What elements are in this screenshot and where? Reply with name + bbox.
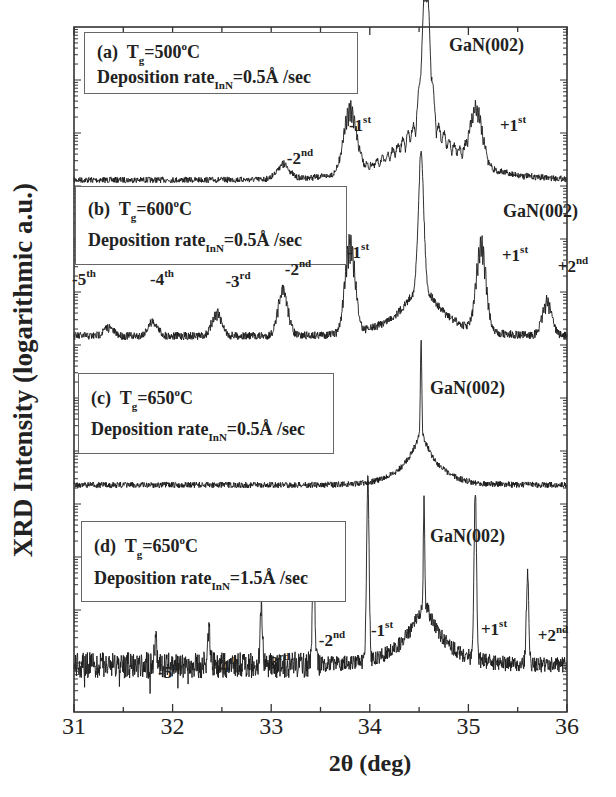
tg-value: =650: [137, 388, 174, 408]
xrd-figure: (a) Tg=500oC Deposition rateInN=0.5Å /se…: [0, 0, 616, 797]
order-label-b: +1st: [502, 243, 528, 266]
tg-label: T: [125, 536, 137, 556]
order-label-d: -1st: [371, 618, 393, 641]
rate-value: =0.5Å /sec: [224, 230, 302, 250]
rate-sub: InN: [214, 79, 232, 91]
x-tick-label: 35: [448, 713, 488, 740]
gan-peak-label-a: GaN(002): [449, 35, 524, 56]
tg-unit: C: [185, 536, 198, 556]
panel-tag: (a): [97, 42, 118, 62]
rate-label: Deposition rate: [94, 568, 211, 588]
rate-label: Deposition rate: [91, 419, 208, 439]
y-axis-label: XRD Intensity (logarithmic a.u.): [8, 170, 38, 570]
gan-peak-label-d: GaN(002): [430, 526, 505, 547]
legend-panel-a: (a) Tg=500oC Deposition rateInN=0.5Å /se…: [84, 32, 358, 94]
panel-tag: (b): [88, 199, 110, 219]
gan-peak-label-b: GaN(002): [503, 201, 578, 222]
plot-frame: [74, 27, 567, 712]
rate-value: =0.5Å /sec: [233, 67, 311, 87]
order-label-d: -3rd: [264, 650, 289, 673]
order-label-a: -2nd: [287, 146, 313, 169]
order-label-d: +1st: [481, 617, 507, 640]
tg-label: T: [120, 388, 132, 408]
x-tick-label: 32: [153, 713, 193, 740]
tg-label: T: [127, 42, 139, 62]
x-tick-label: 36: [547, 713, 587, 740]
order-label-d: -5th: [158, 660, 182, 683]
order-label-b: -4th: [150, 267, 174, 290]
tg-value: =500: [144, 42, 181, 62]
legend-panel-c: (c) Tg=650oC Deposition rateInN=0.5Å /se…: [78, 373, 334, 454]
order-label-d: -4th: [215, 654, 239, 677]
tg-value: =600: [136, 199, 173, 219]
x-tick-label: 34: [350, 713, 390, 740]
order-label-a: -1st: [349, 113, 371, 136]
legend-panel-d: (d) Tg=650oC Deposition rateInN=1.5Å /se…: [81, 521, 346, 602]
tg-label: T: [119, 199, 131, 219]
rate-value: =0.5Å /sec: [227, 419, 305, 439]
rate-sub: InN: [208, 431, 226, 443]
rate-label: Deposition rate: [97, 67, 214, 87]
tg-value: =650: [142, 536, 179, 556]
rate-sub: InN: [211, 580, 229, 592]
order-label-d: -2nd: [319, 628, 345, 651]
axis-ticks: [74, 27, 567, 712]
order-label-b: -2nd: [285, 257, 311, 280]
panel-tag: (c): [91, 388, 111, 408]
rate-sub: InN: [205, 242, 223, 254]
panel-tag: (d): [94, 536, 116, 556]
gan-peak-label-c: GaN(002): [430, 378, 505, 399]
order-label-b: -5th: [72, 267, 96, 290]
order-label-d: +2nd: [538, 623, 568, 646]
order-label-b: -3rd: [225, 269, 250, 292]
order-label-b: -1st: [347, 240, 369, 263]
tg-unit: C: [180, 388, 193, 408]
x-tick-label: 33: [251, 713, 291, 740]
x-tick-label: 31: [54, 713, 94, 740]
order-label-a: +1st: [500, 113, 526, 136]
order-label-b: +2nd: [558, 254, 588, 277]
legend-panel-b: (b) Tg=600oC Deposition rateInN=0.5Å /se…: [75, 186, 347, 265]
rate-value: =1.5Å /sec: [230, 568, 308, 588]
x-axis-label: 2θ (deg): [220, 750, 520, 777]
tg-unit: C: [187, 42, 200, 62]
rate-label: Deposition rate: [88, 230, 205, 250]
tg-unit: C: [179, 199, 192, 219]
